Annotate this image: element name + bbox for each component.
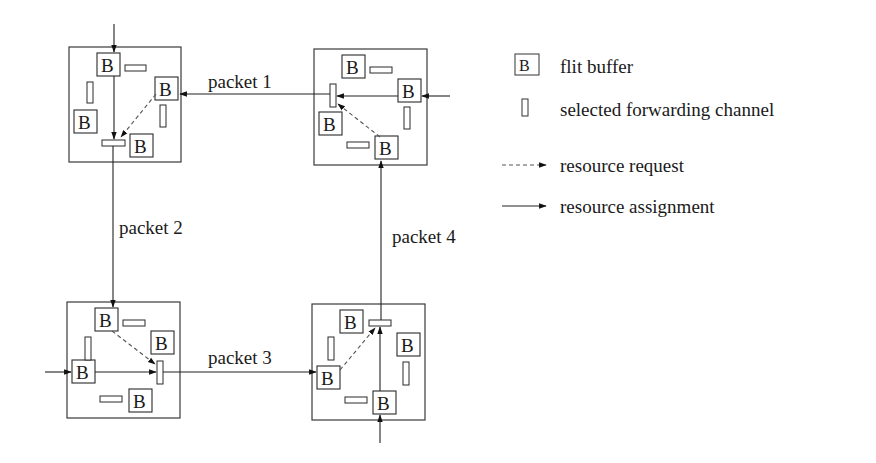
legend-item-flit-buffer: B flit buffer xyxy=(515,54,634,77)
flit-buffer: B xyxy=(151,331,174,354)
svg-text:B: B xyxy=(78,112,91,133)
forwarding-channel xyxy=(403,362,409,385)
packet-2-label: packet 2 xyxy=(119,217,183,238)
forwarding-channel xyxy=(100,396,122,402)
flit-buffer: B xyxy=(130,134,153,157)
selected-forwarding-channel xyxy=(330,84,336,107)
selected-forwarding-channel xyxy=(102,140,125,146)
forwarding-channel xyxy=(160,105,166,127)
flit-buffer: B xyxy=(342,55,365,78)
router-bottom-right: B B B B xyxy=(312,304,425,443)
packet-3-link: packet 3 xyxy=(163,347,316,372)
router-bottom-left: B B B B xyxy=(45,302,180,418)
svg-text:B: B xyxy=(323,114,336,135)
flit-buffer: B xyxy=(340,310,363,333)
svg-text:B: B xyxy=(402,81,415,102)
svg-text:B: B xyxy=(133,391,146,412)
flit-buffer: B xyxy=(95,308,118,331)
packet-1-link: packet 1 xyxy=(180,71,330,94)
deadlock-diagram: B B B B B B xyxy=(0,0,876,463)
selected-forwarding-channel xyxy=(157,361,163,384)
svg-text:B: B xyxy=(377,393,390,414)
forwarding-channel xyxy=(370,67,392,73)
svg-text:B: B xyxy=(159,79,172,100)
selected-forwarding-channel xyxy=(369,320,391,326)
flit-buffer: B xyxy=(398,79,421,102)
flit-buffer: B xyxy=(97,53,120,76)
flit-buffer: B xyxy=(375,136,398,159)
svg-text:B: B xyxy=(344,312,357,333)
svg-text:resource assignment: resource assignment xyxy=(560,196,715,217)
svg-text:selected forwarding channel: selected forwarding channel xyxy=(560,99,774,120)
legend-item-resource-assignment: resource assignment xyxy=(502,196,715,217)
svg-text:B: B xyxy=(101,55,114,76)
forwarding-channel xyxy=(328,337,334,360)
forwarding-channel xyxy=(85,337,91,360)
packet-1-label: packet 1 xyxy=(208,71,272,92)
svg-text:B: B xyxy=(155,333,168,354)
flit-buffer: B xyxy=(317,366,340,389)
forwarding-channel-icon xyxy=(522,99,528,116)
flit-buffer: B xyxy=(319,112,342,135)
svg-text:flit buffer: flit buffer xyxy=(560,56,634,77)
flit-buffer: B xyxy=(397,333,420,356)
svg-text:B: B xyxy=(379,138,392,159)
svg-text:B: B xyxy=(134,136,147,157)
svg-text:B: B xyxy=(346,57,359,78)
flit-buffer: B xyxy=(129,389,152,412)
flit-buffer: B xyxy=(74,110,97,133)
flit-buffer: B xyxy=(155,77,178,100)
packet-3-label: packet 3 xyxy=(208,347,272,368)
svg-text:B: B xyxy=(76,362,89,383)
packet-2-link: packet 2 xyxy=(113,146,183,307)
packet-4-label: packet 4 xyxy=(392,226,456,247)
forwarding-channel xyxy=(87,82,93,103)
legend: B flit buffer selected forwarding channe… xyxy=(502,54,774,217)
svg-text:B: B xyxy=(519,57,530,74)
forwarding-channel xyxy=(404,107,410,129)
forwarding-channel xyxy=(123,320,145,326)
router-top-left: B B B B xyxy=(69,24,181,162)
svg-text:B: B xyxy=(99,310,112,331)
packet-4-link: packet 4 xyxy=(381,161,456,320)
svg-text:resource request: resource request xyxy=(560,155,685,176)
flit-buffer: B xyxy=(72,360,95,383)
forwarding-channel xyxy=(347,142,369,148)
legend-item-resource-request: resource request xyxy=(502,155,685,176)
legend-item-forwarding-channel: selected forwarding channel xyxy=(522,99,774,120)
router-top-right: B B B B xyxy=(314,49,450,165)
svg-text:B: B xyxy=(401,335,414,356)
forwarding-channel xyxy=(125,65,146,71)
svg-text:B: B xyxy=(321,368,334,389)
forwarding-channel xyxy=(345,397,367,403)
flit-buffer: B xyxy=(373,391,396,414)
